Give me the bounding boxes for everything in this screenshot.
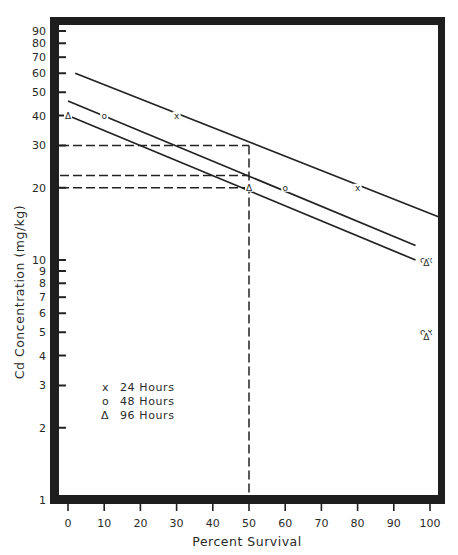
y-tick-label: 80 <box>32 37 46 50</box>
x-tick-label: 20 <box>133 517 147 530</box>
lc50-dashed-guides <box>60 145 249 498</box>
x-tick-label: 30 <box>170 517 184 530</box>
y-tick-label: 10 <box>32 254 46 267</box>
data-point-marker: Δ <box>423 258 430 268</box>
data-point-marker: x <box>174 111 180 121</box>
y-tick-label: 6 <box>39 307 46 320</box>
x-tick-label: 50 <box>242 517 256 530</box>
data-point-marker: Δ <box>423 332 430 342</box>
data-point-marker: Δ <box>65 111 72 121</box>
y-tick-label: 4 <box>39 350 46 363</box>
x-tick-label: 40 <box>206 517 220 530</box>
x-tick-label: 0 <box>65 517 72 530</box>
legend-marker-96h: Δ <box>101 409 109 422</box>
y-tick-label: 1 <box>39 494 46 507</box>
y-tick-label: 20 <box>32 182 46 195</box>
x-axis-ticks: 0102030405060708090100 <box>65 504 441 530</box>
y-tick-label: 50 <box>32 86 46 99</box>
x-axis-title: Percent Survival <box>192 534 301 549</box>
legend-label-96h: 96 Hours <box>120 409 175 422</box>
plot-frame <box>50 17 445 504</box>
data-point-marker: o <box>101 111 107 121</box>
data-point-marker: Δ <box>246 183 253 193</box>
y-tick-label: 30 <box>32 139 46 152</box>
y-tick-label: 90 <box>32 25 46 38</box>
legend-marker-48h: o <box>102 395 109 408</box>
x-tick-label: 60 <box>278 517 292 530</box>
y-tick-label: 5 <box>39 326 46 339</box>
y-tick-label: 40 <box>32 110 46 123</box>
x-tick-label: 70 <box>314 517 328 530</box>
x-tick-label: 80 <box>351 517 365 530</box>
y-tick-label: 3 <box>39 379 46 392</box>
x-tick-label: 100 <box>420 517 441 530</box>
chart-figure: 123456789102030405060708090 010203040506… <box>0 0 458 555</box>
y-tick-label: 7 <box>39 291 46 304</box>
legend-label-48h: 48 Hours <box>120 395 175 408</box>
data-point-marker: o <box>282 183 288 193</box>
y-tick-label: 8 <box>39 277 46 290</box>
y-tick-label: 2 <box>39 422 46 435</box>
x-tick-label: 90 <box>387 517 401 530</box>
y-axis-title: Cd Concentration (mg/kg) <box>12 205 27 379</box>
y-axis-ticks: 123456789102030405060708090 <box>32 25 66 507</box>
y-tick-label: 60 <box>32 67 46 80</box>
regression-lines <box>68 73 441 260</box>
legend-label-24h: 24 Hours <box>120 381 175 394</box>
x-tick-label: 10 <box>97 517 111 530</box>
legend-marker-24h: x <box>102 381 109 394</box>
data-point-marker: x <box>355 183 361 193</box>
legend: x 24 Hours o 48 Hours Δ 96 Hours <box>101 381 175 422</box>
y-tick-label: 70 <box>32 51 46 64</box>
